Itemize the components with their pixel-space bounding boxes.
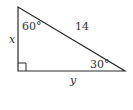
horizontal-leg-label: y xyxy=(69,74,77,87)
right-bottom-angle-label: 30° xyxy=(90,58,110,71)
top-angle-label: 60° xyxy=(22,20,42,33)
triangle-diagram: 60° 14 x 30° y xyxy=(0,0,133,110)
hypotenuse-label: 14 xyxy=(75,20,89,33)
right-angle-marker xyxy=(18,63,26,71)
vertical-leg-label: x xyxy=(9,33,16,46)
